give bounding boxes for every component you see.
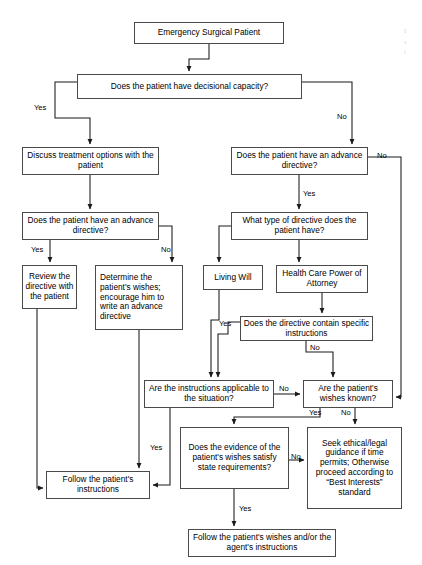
node-wishes-known-label: Are the patient's wishes known? (306, 384, 390, 404)
edge-label-advance-directive-right-yes: Yes (303, 190, 315, 198)
node-advance-directive-left[interactable]: Does the patient have an advance directi… (22, 212, 159, 240)
node-determine-wishes-label: Determine the patient's wishes; encourag… (100, 273, 180, 322)
node-instructions-applicable[interactable]: Are the instructions applicable to the s… (144, 380, 274, 408)
node-determine-wishes[interactable]: Determine the patient's wishes; encourag… (95, 265, 183, 330)
node-seek-ethical-legal-guidance-label: Seek ethical/legal guidance if time perm… (310, 439, 399, 498)
node-follow-patient-wishes-label: Follow the patient's wishes and/or the a… (191, 533, 333, 553)
edge-label-capacity-yes: Yes (34, 104, 46, 112)
node-review-directive[interactable]: Review the directive with the patient (22, 265, 77, 309)
edge-label-evidence-yes: Yes (239, 505, 251, 513)
node-specific-instructions[interactable]: Does the directive contain specific inst… (240, 316, 373, 341)
edge-label-advance-directive-left-yes: Yes (31, 246, 43, 254)
flowchart-canvas: Emergency Surgical Patient Does the pati… (0, 0, 422, 565)
edge-label-applicable-no: No (279, 385, 289, 393)
node-decisional-capacity[interactable]: Does the patient have decisional capacit… (77, 74, 302, 99)
node-advance-directive-right-label: Does the patient have an advance directi… (234, 151, 365, 171)
edge-label-evidence-no: No (291, 453, 301, 461)
node-evidence-state-requirements-label: Does the evidence of the patient's wishe… (183, 443, 286, 472)
node-follow-patient-instructions-label: Follow the patient's instructions (49, 475, 147, 495)
node-health-care-power-of-attorney[interactable]: Health Care Power of Attorney (276, 265, 368, 293)
edge-label-wishes-known-no: No (341, 409, 351, 417)
node-directive-type-label: What type of directive does the patient … (234, 216, 365, 236)
margin-scan-artifact: I s t (404, 26, 407, 58)
node-start-label: Emergency Surgical Patient (137, 28, 281, 38)
node-discuss-treatment-options[interactable]: Discuss treatment options with the patie… (22, 147, 159, 175)
node-health-care-power-of-attorney-label: Health Care Power of Attorney (279, 269, 365, 289)
node-living-will-label: Living Will (206, 273, 260, 283)
edge-label-wishes-known-yes: Yes (309, 409, 321, 417)
node-review-directive-label: Review the directive with the patient (25, 272, 74, 301)
edge-label-specific-instructions-no: No (310, 344, 320, 352)
node-evidence-state-requirements[interactable]: Does the evidence of the patient's wishe… (180, 427, 289, 489)
node-seek-ethical-legal-guidance[interactable]: Seek ethical/legal guidance if time perm… (307, 427, 402, 509)
node-advance-directive-right[interactable]: Does the patient have an advance directi… (231, 147, 368, 175)
node-start[interactable]: Emergency Surgical Patient (134, 22, 284, 44)
edge-label-advance-directive-right-no: No (377, 152, 387, 160)
node-wishes-known[interactable]: Are the patient's wishes known? (303, 380, 393, 408)
edge-label-capacity-no: No (337, 113, 347, 121)
node-directive-type[interactable]: What type of directive does the patient … (231, 212, 368, 240)
node-decisional-capacity-label: Does the patient have decisional capacit… (80, 82, 299, 92)
node-living-will[interactable]: Living Will (203, 265, 263, 290)
node-instructions-applicable-label: Are the instructions applicable to the s… (147, 384, 271, 404)
node-advance-directive-left-label: Does the patient have an advance directi… (25, 216, 156, 236)
node-follow-patient-instructions[interactable]: Follow the patient's instructions (46, 471, 150, 499)
node-discuss-treatment-options-label: Discuss treatment options with the patie… (25, 151, 156, 171)
node-specific-instructions-label: Does the directive contain specific inst… (243, 319, 370, 339)
edge-label-applicable-yes: Yes (150, 444, 162, 452)
node-follow-patient-wishes[interactable]: Follow the patient's wishes and/or the a… (188, 529, 336, 557)
edge-label-specific-instructions-yes: Yes (219, 320, 231, 328)
edge-label-advance-directive-left-no: No (161, 246, 171, 254)
